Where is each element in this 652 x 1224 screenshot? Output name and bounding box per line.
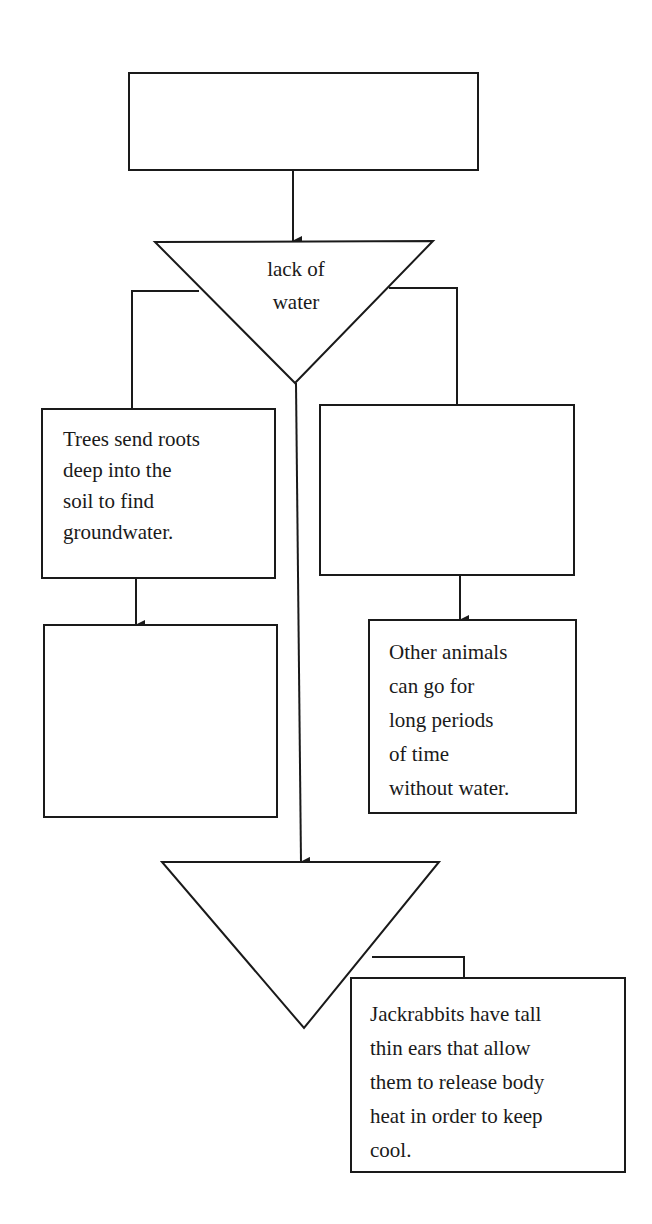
connector-triangle1-to-left-box — [132, 291, 199, 409]
right-box-other-animals-text: Other animals can go for long periods of… — [389, 635, 574, 805]
connector-triangle2-to-bottom-box — [372, 957, 464, 978]
arrow-triangle1-to-triangle2 — [296, 383, 301, 862]
triangle-lack-of-water-label: lack of water — [236, 253, 356, 319]
left-box-empty — [44, 625, 277, 817]
left-box-trees-text: Trees send roots deep into the soil to f… — [63, 424, 273, 548]
top-box — [129, 73, 478, 170]
right-box-empty — [320, 405, 574, 575]
connector-triangle1-to-right-box — [389, 288, 457, 405]
bottom-box-jackrabbits-text: Jackrabbits have tall thin ears that all… — [370, 997, 622, 1167]
